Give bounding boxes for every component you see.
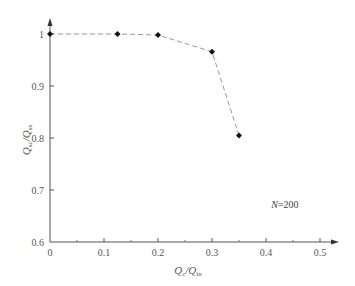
annotation-label: N=200	[270, 199, 298, 210]
y-axis-title: Qsc/Qss	[20, 125, 34, 156]
x-axis-arrow-icon	[331, 240, 339, 245]
x-tick-label: 0	[48, 247, 53, 258]
y-tick-label: 0.9	[32, 81, 45, 92]
x-tick-label: 0.5	[314, 247, 327, 258]
x-tick-label: 0.4	[260, 247, 273, 258]
y-axis-arrow-icon	[48, 18, 53, 26]
diamond-marker-icon	[209, 49, 215, 55]
diamond-marker-icon	[47, 31, 53, 37]
x-tick-label: 0.3	[206, 247, 219, 258]
diamond-marker-icon	[236, 132, 242, 138]
axes: 00.10.20.30.40.50.60.70.80.91	[32, 18, 340, 258]
x-axis-title: Qc/Qin	[174, 264, 202, 278]
data-series	[47, 31, 242, 138]
diamond-marker-icon	[115, 31, 121, 37]
y-tick-label: 0.6	[32, 237, 45, 248]
series-line	[50, 34, 239, 135]
x-tick-label: 0.2	[152, 247, 165, 258]
x-tick-label: 0.1	[98, 247, 111, 258]
y-tick-label: 1	[39, 29, 44, 40]
diamond-marker-icon	[155, 32, 161, 38]
line-chart: 00.10.20.30.40.50.60.70.80.91 Qc/QinQsc/…	[0, 0, 355, 286]
y-tick-label: 0.7	[32, 185, 45, 196]
